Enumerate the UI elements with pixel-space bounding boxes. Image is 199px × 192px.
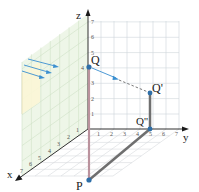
x-tick: 5	[38, 155, 41, 161]
z-axis-label: z	[76, 9, 81, 21]
projection-q-to-qprime	[92, 68, 148, 92]
y-tick: 1	[97, 131, 100, 137]
x-tick: 1	[76, 127, 79, 133]
y-tick: 4	[136, 131, 139, 137]
z-tick: 7	[91, 19, 94, 25]
z-axis-arrowhead-icon	[86, 9, 91, 16]
point-p	[86, 177, 91, 182]
y-tick: 5	[149, 131, 152, 137]
arrowhead-icon	[113, 76, 120, 80]
x-tick: 4	[48, 148, 51, 154]
label-p: P	[76, 179, 83, 192]
point-qdoubleprime	[148, 127, 153, 132]
z-tick: 1	[91, 111, 94, 117]
x-tick: 6	[29, 161, 32, 167]
x-tick: 2	[67, 134, 70, 140]
yz-wall	[88, 21, 179, 129]
y-tick: 7	[175, 131, 178, 137]
z-tick: 3	[91, 80, 94, 86]
x-axis-arrowhead-icon	[15, 175, 23, 182]
x-tick: 7	[20, 168, 23, 174]
x-axis-label: x	[7, 168, 13, 180]
y-ticks: 1 2 3 4 5 6 7	[97, 131, 178, 137]
x-tick: 3	[57, 141, 60, 147]
label-qdoubleprime: Q''	[136, 115, 148, 127]
y-tick: 3	[123, 131, 126, 137]
y-tick: 2	[110, 131, 113, 137]
coordinate-diagram: z y x 1 2 3 4 5 6 7 1 2 3 4 5 6 7 1 2 3 …	[0, 0, 199, 192]
label-qprime: Q'	[152, 81, 163, 95]
z-tick: 2	[91, 96, 94, 102]
label-q: Q	[91, 53, 100, 67]
z-tick: 6	[91, 34, 94, 40]
y-tick: 6	[162, 131, 165, 137]
z-tick: 4	[81, 65, 84, 71]
y-axis-label: y	[183, 131, 189, 143]
